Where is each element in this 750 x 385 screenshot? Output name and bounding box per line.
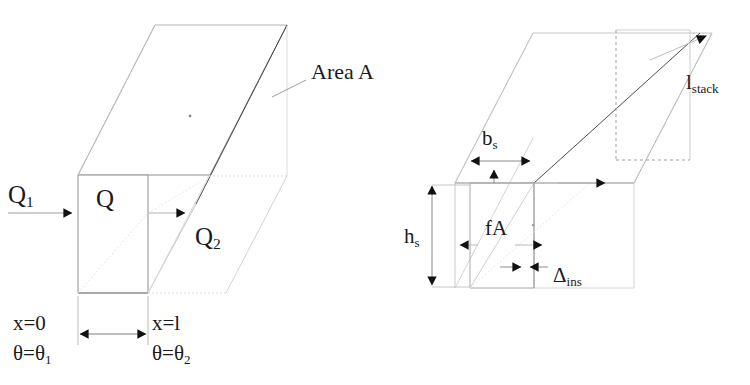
right-stack-dimension-arrows <box>432 36 706 287</box>
label-element-heat-flow: Q <box>96 186 114 211</box>
area-leader-line <box>272 80 306 97</box>
label-outlet-heat-flow: Q2 <box>195 224 221 252</box>
label-area-a: Area A <box>311 61 374 83</box>
left-length-dimension <box>78 296 148 345</box>
label-inner-area-fa: fA <box>485 218 507 239</box>
label-x-end: x=l <box>152 313 180 334</box>
label-stack-breadth: bs <box>482 128 498 151</box>
left-duct-wireframe <box>78 25 287 293</box>
label-theta-start: θ=θ1 <box>13 343 51 366</box>
label-theta-end: θ=θ2 <box>152 343 190 366</box>
label-stack-height: hs <box>404 226 420 249</box>
diagram-canvas: Q1 Q Q2 Area A x=0 θ=θ1 x=l θ=θ2 bs hs f… <box>0 0 750 385</box>
label-x-start: x=0 <box>13 313 46 334</box>
label-stack-length: lstack <box>686 72 719 95</box>
label-insulation-thickness: Δins <box>553 265 582 288</box>
label-inlet-heat-flow: Q1 <box>8 182 34 210</box>
right-stack-wireframe <box>455 30 712 288</box>
